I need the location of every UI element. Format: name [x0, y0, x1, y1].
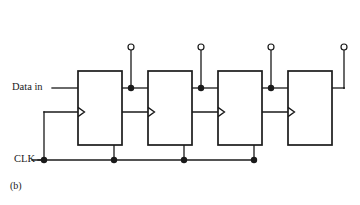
- output-terminal-q0[interactable]: [128, 44, 134, 50]
- flipflop-box-1[interactable]: [148, 71, 192, 145]
- clk-junction-3: [251, 157, 257, 163]
- output-terminal-q3[interactable]: [341, 44, 347, 50]
- figure-caption: (b): [10, 180, 22, 191]
- flipflop-box-2[interactable]: [218, 71, 262, 145]
- output-terminal-q2[interactable]: [268, 44, 274, 50]
- clk-junction-2: [181, 157, 187, 163]
- clk-junction-0: [41, 157, 47, 163]
- circuit-schematic: [0, 0, 360, 205]
- figure-canvas: Data in CLK (b): [0, 0, 360, 205]
- clk-label: CLK: [14, 153, 35, 164]
- output-terminal-layer: [128, 44, 347, 50]
- data-in-label: Data in: [12, 81, 43, 92]
- q1-tap-dot: [198, 85, 204, 91]
- clk-junction-1: [111, 157, 117, 163]
- output-terminal-q1[interactable]: [198, 44, 204, 50]
- flipflop-box-0[interactable]: [78, 71, 122, 145]
- q0-tap-dot: [128, 85, 134, 91]
- q2-tap-dot: [268, 85, 274, 91]
- flipflop-box-layer: [78, 71, 332, 145]
- flipflop-box-3[interactable]: [288, 71, 332, 145]
